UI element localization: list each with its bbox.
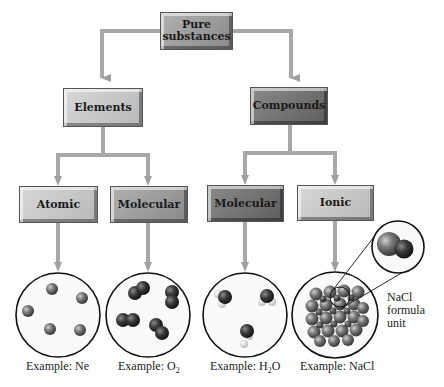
nacl-formula-unit-callout: NaCl formula unit xyxy=(387,291,425,330)
example-o2-label: Example: O2 xyxy=(118,359,180,375)
ionic-box: Ionic xyxy=(297,185,374,221)
molecular-element-box: Molecular xyxy=(110,186,188,223)
pure-substances-label: Pure substances xyxy=(161,19,232,43)
example-ne-label: Example: Ne xyxy=(26,359,89,374)
arrow-to-compounds xyxy=(233,31,291,78)
arrow-to-elements xyxy=(102,31,160,78)
ionic-label: Ionic xyxy=(320,197,351,209)
atomic-label: Atomic xyxy=(37,199,80,211)
elements-label: Elements xyxy=(74,102,131,114)
compounds-box: Compounds xyxy=(250,87,328,125)
example-h2o-label: Example: H2O xyxy=(210,359,280,375)
molecular-compound-label: Molecular xyxy=(214,198,277,210)
atomic-box: Atomic xyxy=(19,186,98,223)
compounds-label: Compounds xyxy=(253,100,326,112)
example-nacl-label: Example: NaCl xyxy=(300,359,374,374)
elements-box: Elements xyxy=(63,88,143,127)
pure-substances-box: Pure substances xyxy=(160,12,233,50)
molecular-compound-box: Molecular xyxy=(207,185,284,222)
molecular-element-label: Molecular xyxy=(118,199,181,211)
